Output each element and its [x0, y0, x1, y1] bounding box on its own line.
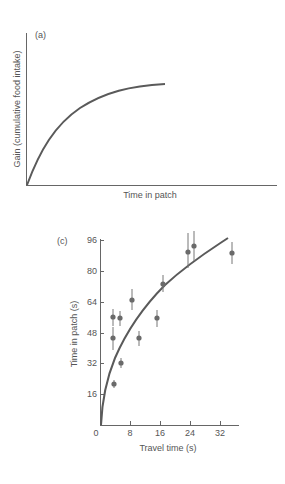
- y-tick-32: 32: [87, 358, 97, 368]
- panel-c-x-ticks: [131, 421, 221, 425]
- figure: (a) Time in patch Gain (cumulative food …: [0, 0, 285, 484]
- x-tick-32: 32: [215, 428, 225, 438]
- panel-c-predicted-curve: [101, 238, 228, 425]
- x-tick-24: 24: [185, 428, 195, 438]
- panel-a-label: (a): [35, 30, 46, 40]
- x-tick-16: 16: [155, 428, 165, 438]
- panel-c-y-label: Time in patch (s): [69, 301, 79, 368]
- panel-a: (a) Time in patch Gain (cumulative food …: [12, 30, 277, 200]
- y-tick-80: 80: [87, 266, 97, 276]
- y-tick-48: 48: [87, 328, 97, 338]
- panel-c-label: (c): [57, 236, 68, 246]
- panel-a-y-label: Gain (cumulative food intake): [12, 50, 22, 167]
- panel-c-data-points: [110, 231, 234, 388]
- panel-c-x-label: Travel time (s): [139, 443, 196, 453]
- x-tick-0: 0: [93, 428, 98, 438]
- y-tick-16: 16: [87, 389, 97, 399]
- y-tick-64: 64: [87, 297, 97, 307]
- panel-a-x-label: Time in patch: [123, 190, 177, 200]
- y-tick-96: 96: [87, 235, 97, 245]
- panel-c: (c) 96 80 64 48 32 16 0 8 16 24 32 Trav: [57, 231, 239, 453]
- x-tick-8: 8: [127, 428, 132, 438]
- panel-a-gain-curve: [27, 84, 165, 185]
